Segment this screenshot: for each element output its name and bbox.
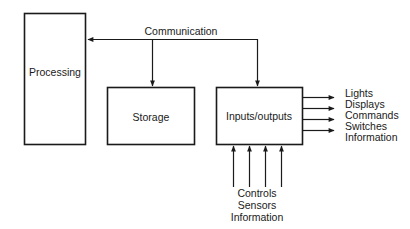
processing-label: Processing: [29, 66, 81, 78]
storage-label: Storage: [133, 111, 170, 123]
input-label: Controls: [237, 187, 276, 199]
communication-bus: Communication: [88, 25, 258, 86]
system-block-diagram: Processing Storage Inputs/outputs Commun…: [0, 0, 410, 229]
io-block: Inputs/outputs: [217, 88, 303, 145]
output-labels: Lights Displays Commands Switches Inform…: [345, 87, 399, 143]
output-arrows: [303, 98, 334, 131]
output-label: Information: [345, 131, 398, 143]
storage-block: Storage: [108, 88, 195, 145]
io-label: Inputs/outputs: [226, 110, 292, 122]
processing-block: Processing: [25, 14, 86, 145]
input-arrows: [234, 146, 282, 187]
input-label: Information: [231, 211, 284, 223]
communication-label: Communication: [145, 25, 218, 37]
input-label: Sensors: [238, 199, 277, 211]
input-labels: Controls Sensors Information: [231, 187, 284, 223]
